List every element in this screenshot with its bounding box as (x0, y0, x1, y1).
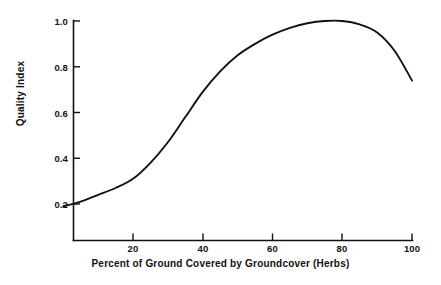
x-tick-label-80: 80 (337, 243, 348, 254)
x-tick-label-60: 60 (267, 243, 278, 254)
y-tick-label-0.4: 0.4 (42, 153, 68, 164)
y-tick-label-0.6: 0.6 (42, 107, 68, 118)
y-axis-ticks (74, 21, 81, 204)
quality-index-curve (63, 21, 412, 207)
y-axis-label: Quality Index (15, 49, 26, 139)
x-axis-ticks (133, 234, 412, 241)
x-axis-label: Percent of Ground Covered by Groundcover… (0, 258, 441, 269)
y-tick-label-1.0: 1.0 (42, 16, 68, 27)
x-tick-label-40: 40 (198, 243, 209, 254)
x-tick-label-20: 20 (128, 243, 139, 254)
y-tick-label-0.8: 0.8 (42, 61, 68, 72)
axes-group (74, 21, 413, 241)
chart-figure: 1.0 0.8 0.6 0.4 0.2 20 40 60 80 100 Perc… (0, 0, 441, 285)
y-tick-label-0.2: 0.2 (42, 199, 68, 210)
chart-plot-area (0, 0, 441, 285)
x-tick-label-100: 100 (404, 243, 420, 254)
